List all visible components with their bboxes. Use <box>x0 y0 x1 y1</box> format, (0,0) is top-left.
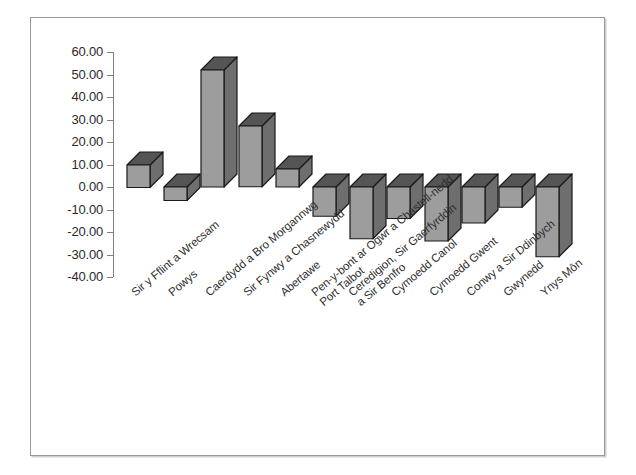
bar-3d-shape <box>499 174 537 209</box>
bar <box>164 174 200 201</box>
bar <box>239 113 275 187</box>
bar <box>462 174 498 223</box>
y-axis-line <box>113 52 114 277</box>
bar <box>276 156 312 187</box>
y-tick-label: -10.00 <box>31 202 103 217</box>
y-tick-label: 20.00 <box>31 134 103 149</box>
y-tick-mark <box>107 255 113 256</box>
y-tick-mark <box>107 97 113 98</box>
y-tick-label: 10.00 <box>31 157 103 172</box>
y-tick-mark <box>107 187 113 188</box>
y-tick-label: 50.00 <box>31 67 103 82</box>
bar-3d-shape <box>201 57 239 189</box>
y-tick-mark <box>107 52 113 53</box>
plot-area: 60.0050.0040.0030.0020.0010.000.00-10.00… <box>31 18 606 457</box>
bar <box>201 57 237 187</box>
y-tick-label: 60.00 <box>31 44 103 59</box>
y-tick-mark <box>107 165 113 166</box>
chart-page: 60.0050.0040.0030.0020.0010.000.00-10.00… <box>0 0 636 475</box>
y-tick-mark <box>107 277 113 278</box>
y-tick-label: -40.00 <box>31 269 103 284</box>
y-tick-mark <box>107 232 113 233</box>
bar-3d-shape <box>127 152 165 190</box>
bar <box>536 174 572 257</box>
chart-frame: 60.0050.0040.0030.0020.0010.000.00-10.00… <box>30 17 605 456</box>
y-tick-mark <box>107 142 113 143</box>
y-tick-mark <box>107 210 113 211</box>
x-axis-label: Ynys Môn <box>538 257 584 299</box>
x-axis-label: Powys <box>166 268 199 299</box>
bar-3d-shape <box>462 174 500 225</box>
bar-3d-shape <box>164 174 202 203</box>
y-tick-label: 0.00 <box>31 179 103 194</box>
y-tick-mark <box>107 120 113 121</box>
y-tick-label: -20.00 <box>31 224 103 239</box>
y-tick-label: -30.00 <box>31 247 103 262</box>
bar-3d-shape <box>276 156 314 189</box>
bar-3d-shape <box>536 174 574 259</box>
bar <box>499 174 535 207</box>
bar <box>313 174 349 216</box>
y-tick-label: 40.00 <box>31 89 103 104</box>
bar-3d-shape <box>239 113 277 189</box>
y-tick-mark <box>107 75 113 76</box>
bar <box>127 152 163 188</box>
y-tick-label: 30.00 <box>31 112 103 127</box>
